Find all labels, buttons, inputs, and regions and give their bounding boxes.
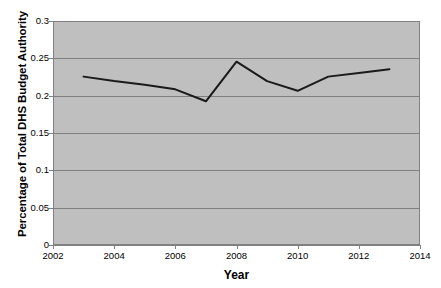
y-tick-label: 0.25 (9, 53, 49, 63)
y-tick-label: 0.05 (9, 203, 49, 213)
x-tick-label: 2010 (278, 250, 318, 261)
y-tick-label: 0.2 (9, 91, 49, 101)
y-tick-label: 0.3 (9, 16, 49, 26)
data-series-line (84, 62, 390, 102)
chart-figure: 00.050.10.150.20.250.3 20022004200620082… (0, 0, 441, 288)
x-tick-label: 2012 (339, 250, 379, 261)
x-tick-label: 2008 (217, 250, 257, 261)
y-tick-label: 0.1 (9, 165, 49, 175)
x-tick-label: 2002 (33, 250, 73, 261)
x-tick-label: 2014 (400, 250, 440, 261)
x-tick-label: 2006 (155, 250, 195, 261)
y-axis-title: Percentage of Total DHS Budget Authority (16, 0, 28, 250)
y-tick-label: 0 (9, 240, 49, 250)
gridlines-group (53, 22, 420, 246)
x-axis-title: Year (53, 268, 420, 282)
x-tick-label: 2004 (94, 250, 134, 261)
y-tick-label: 0.15 (9, 128, 49, 138)
tick-marks-group (49, 21, 421, 249)
chart-canvas (0, 0, 441, 288)
